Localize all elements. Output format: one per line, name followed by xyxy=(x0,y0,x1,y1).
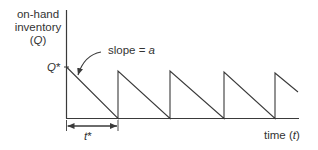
x-axis-label: time (t) xyxy=(264,129,300,142)
y-axis-label-line1: on-hand xyxy=(10,8,66,21)
y-axis-label-line3: (Q) xyxy=(10,34,66,47)
slope-arrow xyxy=(78,52,101,75)
y-axis-label: on-hand inventory (Q) xyxy=(10,8,66,47)
y-axis-label-line2: inventory xyxy=(10,21,66,34)
inventory-sawtooth-line xyxy=(67,67,299,119)
t-star-label: t* xyxy=(84,130,92,143)
inventory-sawtooth-diagram: on-hand inventory (Q) Q* slope = a t* ti… xyxy=(0,0,318,150)
slope-label: slope = a xyxy=(108,44,155,57)
q-star-label: Q* xyxy=(47,61,60,74)
